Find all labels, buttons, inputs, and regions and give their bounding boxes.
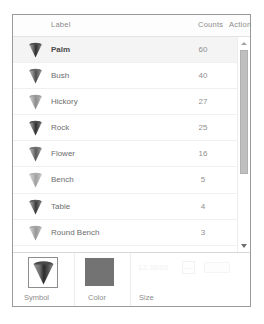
cone-glyph [28,225,43,241]
cone-icon[interactable] [28,146,43,162]
vertical-scrollbar[interactable] [237,37,250,252]
cone-glyph [28,172,43,188]
table-row[interactable]: Palm60 [13,37,237,63]
row-count: 27 [191,97,215,106]
table-rows-viewport: Palm60Bush40Hickory27Rock25Flower16Bench… [13,37,250,252]
row-count: 5 [191,175,215,184]
cone-glyph [28,199,43,215]
triangle-up-icon[interactable] [238,38,250,49]
legend-editor-panel: Label Counts Action Palm60Bush40Hickory2… [12,14,251,307]
cone-icon [32,260,55,285]
size-spinner-icon[interactable] [182,261,195,274]
symbol-swatch-button[interactable] [28,257,58,288]
triangle-down-icon[interactable] [238,240,250,251]
column-header-label[interactable]: Label [51,20,71,29]
table-rows-list: Palm60Bush40Hickory27Rock25Flower16Bench… [13,37,237,246]
row-count: 60 [191,45,215,54]
row-label: Bush [51,71,69,80]
cone-icon[interactable] [28,225,43,241]
cone-glyph [28,146,43,162]
row-label: Rock [51,123,69,132]
row-count: 16 [191,149,215,158]
table-row[interactable]: Rock25 [13,115,237,141]
color-swatch-button[interactable] [85,258,114,286]
row-count: 3 [191,228,215,237]
symbol-editor-bar: Symbol Color 12.0000 Size [13,252,250,306]
row-count: 4 [191,202,215,211]
cone-glyph [28,94,43,110]
row-label: Bench [51,175,74,184]
cone-icon[interactable] [28,120,43,136]
row-label: Round Bench [51,228,99,237]
column-header-action[interactable]: Action [229,20,251,29]
row-label: Table [51,202,70,211]
row-count: 40 [191,71,215,80]
symbol-caption: Symbol [24,293,49,302]
size-control-group[interactable]: 12.0000 [138,261,232,275]
color-caption: Color [88,293,106,302]
table-row[interactable]: Flower16 [13,141,237,167]
column-header-counts[interactable]: Counts [198,20,223,29]
table-row[interactable]: Bush40 [13,63,237,89]
row-label: Palm [51,45,70,54]
symbol-editor-cell: Symbol [13,253,75,306]
row-label: Flower [51,149,75,158]
cone-icon[interactable] [28,42,43,58]
cone-glyph [28,42,43,58]
size-caption: Size [139,293,154,302]
size-stepper-icon[interactable] [204,262,230,273]
triangle-down-glyph [241,244,247,248]
size-value-input[interactable]: 12.0000 [138,263,169,272]
table-row[interactable]: Hickory27 [13,89,237,115]
table-row[interactable]: Round Bench3 [13,220,237,246]
row-label: Hickory [51,97,78,106]
scrollbar-thumb[interactable] [240,50,248,174]
row-count: 25 [191,123,215,132]
cone-glyph [28,120,43,136]
size-editor-cell: 12.0000 Size [131,253,250,306]
cone-icon[interactable] [28,68,43,84]
cone-icon[interactable] [28,94,43,110]
color-editor-cell: Color [75,253,131,306]
cone-icon[interactable] [28,172,43,188]
cone-icon[interactable] [28,199,43,215]
table-header: Label Counts Action [13,15,250,37]
table-row[interactable]: Table4 [13,194,237,220]
table-row[interactable]: Bench5 [13,167,237,193]
cone-glyph [28,68,43,84]
triangle-up-glyph [241,42,247,45]
